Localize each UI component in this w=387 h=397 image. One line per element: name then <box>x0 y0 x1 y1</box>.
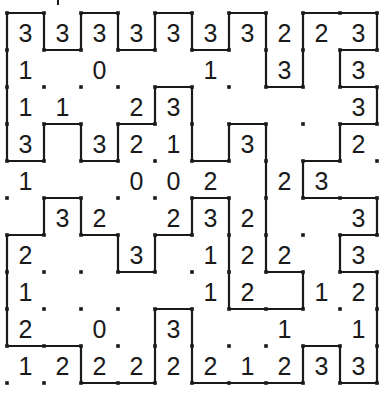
clue-cell: 3 <box>352 241 366 269</box>
clue-cell: 0 <box>93 56 107 84</box>
clue-cell: 2 <box>56 352 70 380</box>
clue-cell: 1 <box>19 167 33 195</box>
clue-cell: 1 <box>167 130 181 158</box>
clue-cell: 2 <box>241 241 255 269</box>
clue-cell: 3 <box>241 19 255 47</box>
clue-cell: 3 <box>204 204 218 232</box>
grid-dot <box>42 85 46 89</box>
clue-cell: 3 <box>130 241 144 269</box>
clue-cell: 2 <box>130 93 144 121</box>
clue-cell: 0 <box>93 315 107 343</box>
clue-cell: 2 <box>315 19 329 47</box>
clue-cell: 3 <box>19 130 33 158</box>
clue-cell: 3 <box>241 130 255 158</box>
clue-cell: 1 <box>204 278 218 306</box>
grid-dot <box>5 196 9 200</box>
clue-cell: 3 <box>352 56 366 84</box>
clue-cell: 3 <box>93 19 107 47</box>
grid-dot <box>116 85 120 89</box>
clue-cell: 1 <box>204 56 218 84</box>
clue-cell: 1 <box>204 241 218 269</box>
grid-dot <box>375 159 379 163</box>
clue-cell: 1 <box>19 56 33 84</box>
clue-cell: 1 <box>241 352 255 380</box>
clue-cell: 1 <box>278 315 292 343</box>
clue-cell: 3 <box>93 130 107 158</box>
clue-cell: 3 <box>278 56 292 84</box>
clue-cell: 2 <box>278 352 292 380</box>
clue-cell: 3 <box>352 93 366 121</box>
grid-dot <box>42 270 46 274</box>
solution-loop <box>7 13 377 383</box>
clue-cell: 1 <box>352 315 366 343</box>
grid-dot <box>116 196 120 200</box>
clue-cell: 3 <box>56 204 70 232</box>
clue-cell: 2 <box>204 352 218 380</box>
clue-cell: 2 <box>278 241 292 269</box>
clue-cell: 3 <box>352 352 366 380</box>
clue-cell: 3 <box>19 19 33 47</box>
clue-cell: 3 <box>167 19 181 47</box>
clue-cell: 2 <box>93 204 107 232</box>
clue-cell: 2 <box>130 352 144 380</box>
grid-dot <box>5 381 9 385</box>
grid-dot <box>227 85 231 89</box>
grid-dot <box>42 307 46 311</box>
clue-cell: 1 <box>19 93 33 121</box>
clue-cell: 0 <box>167 167 181 195</box>
grid-dot <box>264 344 268 348</box>
grid-dot <box>79 307 83 311</box>
grid-dot <box>116 307 120 311</box>
clue-cell: 1 <box>19 278 33 306</box>
clue-cell: 2 <box>19 241 33 269</box>
clue-cell: 2 <box>167 352 181 380</box>
clue-cell: 2 <box>93 352 107 380</box>
grid-dot <box>153 196 157 200</box>
clue-cell: 3 <box>167 315 181 343</box>
clue-cell: 2 <box>278 19 292 47</box>
grid-dot <box>42 381 46 385</box>
clue-cell: 3 <box>167 93 181 121</box>
clue-cell: 2 <box>204 167 218 195</box>
grid-dot <box>338 307 342 311</box>
grid-dot <box>153 159 157 163</box>
clue-cell: 1 <box>56 93 70 121</box>
clue-cell: 0 <box>130 167 144 195</box>
grid-dot <box>301 233 305 237</box>
clue-cell: 1 <box>315 278 329 306</box>
clue-cell: 1 <box>19 352 33 380</box>
clue-cell: 2 <box>241 204 255 232</box>
grid-dot <box>190 270 194 274</box>
clue-cell: 2 <box>241 278 255 306</box>
clue-cell: 2 <box>352 278 366 306</box>
grid-dot <box>116 344 120 348</box>
grid-dot <box>79 85 83 89</box>
clue-cell: 2 <box>352 130 366 158</box>
slitherlink-board: 3333333223101331123333213210022332232323… <box>0 0 387 397</box>
clue-cell: 3 <box>352 19 366 47</box>
grid-dot <box>79 270 83 274</box>
clue-cell: 2 <box>278 167 292 195</box>
clue-cell: 2 <box>130 130 144 158</box>
clue-cell: 3 <box>315 352 329 380</box>
clue-cell: 3 <box>352 204 366 232</box>
clue-cell: 3 <box>56 19 70 47</box>
clue-cell: 3 <box>204 19 218 47</box>
clue-cell: 3 <box>315 167 329 195</box>
clue-cell: 2 <box>19 315 33 343</box>
grid-dot <box>301 122 305 126</box>
grid-dot <box>227 344 231 348</box>
clue-cell: 3 <box>130 19 144 47</box>
clue-cell: 2 <box>167 204 181 232</box>
